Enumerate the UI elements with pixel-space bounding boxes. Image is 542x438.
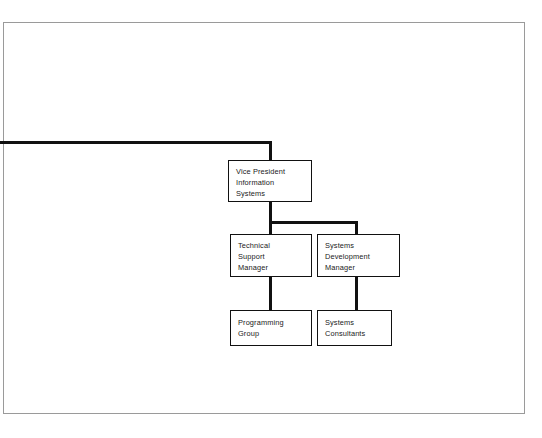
org-chart-canvas: Vice President Information Systems Techn… xyxy=(0,0,542,438)
page-border-frame xyxy=(3,22,525,414)
node-systems-consultants: Systems Consultants xyxy=(317,310,392,346)
node-technical-support-manager-label: Technical Support Manager xyxy=(231,235,311,274)
connector-distribution-bus xyxy=(269,221,358,224)
node-systems-consultants-label: Systems Consultants xyxy=(318,311,391,339)
node-technical-support-manager: Technical Support Manager xyxy=(230,234,312,277)
node-programming-group: Programming Group xyxy=(230,310,312,346)
connector-parent-vertical xyxy=(269,141,272,162)
node-programming-group-label: Programming Group xyxy=(231,311,311,339)
connector-technical-support-to-programming xyxy=(269,275,272,312)
node-vice-president: Vice President Information Systems xyxy=(228,160,312,202)
node-systems-development-manager-label: Systems Development Manager xyxy=(318,235,399,274)
node-vice-president-label: Vice President Information Systems xyxy=(229,161,311,200)
connector-parent-horizontal xyxy=(0,141,272,144)
node-systems-development-manager: Systems Development Manager xyxy=(317,234,400,277)
connector-systems-development-to-consultants xyxy=(355,275,358,312)
